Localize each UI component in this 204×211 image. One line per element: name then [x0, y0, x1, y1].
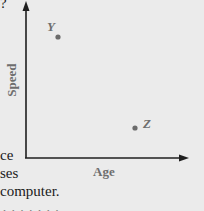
y-axis-arrow-icon — [23, 1, 30, 11]
point-label-z: Z — [143, 116, 151, 132]
x-axis-label: Age — [93, 164, 115, 180]
data-point-z — [132, 125, 137, 130]
point-label-y: Y — [47, 19, 55, 35]
data-point-y — [55, 34, 60, 39]
x-axis-arrow-icon — [179, 155, 189, 162]
y-axis-label: Speed — [4, 60, 20, 100]
